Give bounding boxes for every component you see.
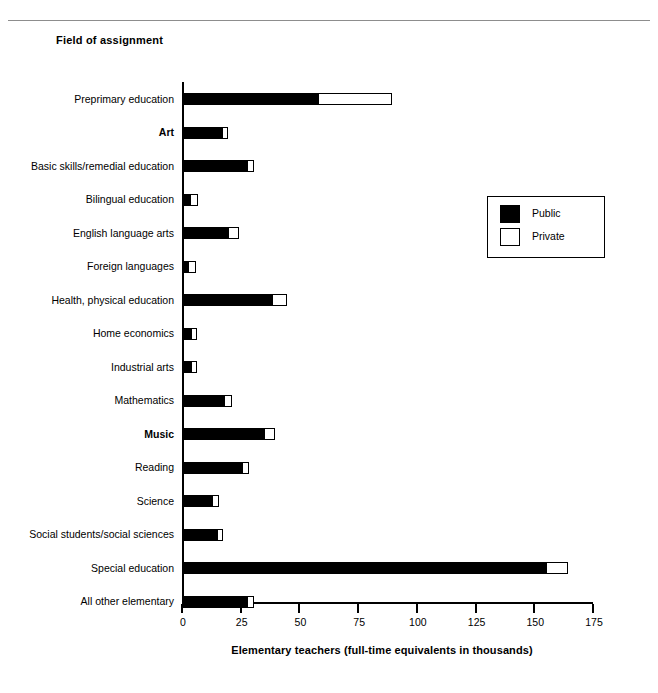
bar-segment-public (182, 596, 247, 608)
bar-segment-public (182, 361, 191, 373)
legend-label: Private (532, 230, 565, 242)
white-square-icon (500, 228, 520, 246)
category-label: Reading (0, 461, 174, 474)
x-tick-label: 100 (398, 616, 438, 628)
bar-segment-private (318, 93, 392, 105)
category-label: Music (0, 428, 174, 441)
plot-area: 0255075100125150175 Elementary teachers … (182, 82, 593, 602)
category-label: Science (0, 495, 174, 508)
bar-segment-public (182, 395, 224, 407)
category-label: Industrial arts (0, 361, 174, 374)
bar-segment-private (264, 428, 275, 440)
bar-segment-private (212, 495, 219, 507)
figure-canvas: Field of assignment Preprimary education… (0, 0, 658, 693)
x-tick-label: 0 (163, 616, 203, 628)
x-tick (533, 604, 535, 613)
bar-segment-public (182, 127, 222, 139)
bar-segment-private (191, 328, 198, 340)
category-label: English language arts (0, 227, 174, 240)
bar-segment-public (182, 328, 191, 340)
x-tick (475, 604, 477, 613)
category-label: Health, physical education (0, 294, 174, 307)
category-label: Preprimary education (0, 93, 174, 106)
x-tick-label: 25 (222, 616, 262, 628)
bar-segment-private (242, 462, 249, 474)
x-tick-label: 150 (515, 616, 555, 628)
x-tick (416, 604, 418, 613)
x-tick (181, 604, 183, 613)
bar-segment-private (546, 562, 568, 574)
category-label: Special education (0, 562, 174, 575)
x-tick-label: 50 (280, 616, 320, 628)
category-label: Mathematics (0, 394, 174, 407)
black-square-icon (500, 205, 520, 223)
bar-segment-private (222, 127, 228, 139)
bar-segment-private (191, 361, 198, 373)
x-tick (592, 604, 594, 613)
bar-segment-public (182, 495, 212, 507)
category-label: Foreign languages (0, 260, 174, 273)
bar-segment-public (182, 529, 217, 541)
x-tick-label: 175 (574, 616, 614, 628)
legend-box: PublicPrivate (487, 196, 605, 258)
bar-segment-public (182, 93, 318, 105)
category-label: Art (0, 126, 174, 139)
x-tick (298, 604, 300, 613)
x-tick-label: 125 (457, 616, 497, 628)
bar-segment-private (247, 160, 254, 172)
x-tick-label: 75 (339, 616, 379, 628)
bar-segment-private (190, 194, 198, 206)
bar-segment-private (188, 261, 196, 273)
legend-label: Public (532, 207, 561, 219)
category-label-column: Preprimary educationArtBasic skills/reme… (0, 82, 174, 602)
category-label: Bilingual education (0, 193, 174, 206)
category-label: Basic skills/remedial education (0, 160, 174, 173)
bar-segment-private (247, 596, 255, 608)
x-tick (240, 604, 242, 613)
bar-segment-private (272, 294, 287, 306)
bar-segment-public (182, 227, 228, 239)
bar-segment-public (182, 562, 546, 574)
bar-segment-private (228, 227, 239, 239)
bar-segment-public (182, 462, 242, 474)
bar-segment-public (182, 160, 247, 172)
category-label: All other elementary (0, 595, 174, 608)
category-label: Home economics (0, 327, 174, 340)
y-axis-heading: Field of assignment (56, 34, 163, 46)
bar-segment-public (182, 294, 272, 306)
x-axis-title: Elementary teachers (full-time equivalen… (32, 644, 658, 656)
category-label: Social students/social sciences (0, 528, 174, 541)
bar-segment-public (182, 428, 264, 440)
bar-segment-private (217, 529, 224, 541)
top-divider-rule (8, 20, 650, 21)
bar-segment-public (182, 194, 190, 206)
x-tick (357, 604, 359, 613)
bar-segment-private (224, 395, 232, 407)
